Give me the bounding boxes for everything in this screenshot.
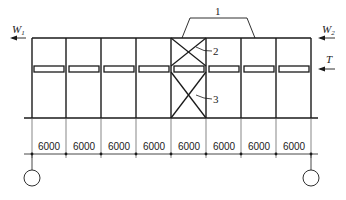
callout-3-leader — [196, 95, 212, 99]
grid-bubble-right — [303, 170, 319, 186]
svg-text:6000: 6000 — [213, 141, 236, 152]
grid-bubble-left — [24, 170, 40, 186]
dimension-labels: 6000 6000 6000 6000 6000 6000 6000 6000 — [38, 141, 306, 152]
w1-label: W1 — [12, 23, 25, 37]
svg-text:6000: 6000 — [178, 141, 201, 152]
callout-3: 3 — [213, 93, 219, 105]
svg-text:6000: 6000 — [108, 141, 131, 152]
w2-label: W2 — [322, 23, 335, 37]
bracing-diagram: W1 W2 T 1 2 3 6000 6000 6000 6000 6000 6… — [0, 0, 346, 200]
svg-text:6000: 6000 — [38, 141, 61, 152]
svg-text:6000: 6000 — [143, 141, 166, 152]
svg-text:6000: 6000 — [248, 141, 271, 152]
callout-2-leader — [196, 47, 212, 51]
callout-1-leader — [182, 18, 255, 38]
t-label: T — [326, 53, 333, 65]
callout-1: 1 — [215, 5, 221, 17]
columns — [32, 38, 311, 118]
svg-text:6000: 6000 — [283, 141, 306, 152]
cross-bracing — [171, 38, 206, 118]
dimension-extensions — [32, 118, 311, 158]
svg-text:6000: 6000 — [73, 141, 96, 152]
callout-2: 2 — [213, 45, 219, 57]
